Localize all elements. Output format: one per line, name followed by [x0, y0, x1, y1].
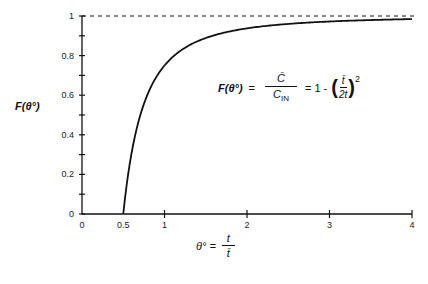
y-tick-label: 0.6 [61, 90, 74, 100]
equation-lhs: F(θ°) [218, 82, 243, 94]
data-curve [123, 19, 412, 214]
x-tick-label: 2 [244, 220, 249, 230]
inner-numerator: t̄ [340, 75, 347, 88]
x-tick-label: 3 [327, 220, 332, 230]
x-axis-label: θ° = t t̄ [196, 232, 239, 259]
denominator-subscript: IN [281, 94, 289, 103]
x-tick-label: 0 [79, 220, 84, 230]
y-tick-label: 0.4 [61, 130, 74, 140]
exponent: 2 [355, 74, 360, 84]
x-label-fraction: t t̄ [222, 232, 235, 259]
x-label-theta: θ° = [196, 240, 216, 252]
y-tick-label: 0.8 [61, 51, 74, 61]
y-tick-label: 1 [69, 11, 74, 21]
x-tick-label: 0.5 [117, 220, 130, 230]
fraction-numerator: C̄ [265, 72, 297, 87]
right-paren: ) [348, 76, 355, 99]
inner-fraction: t̄ 2t [339, 75, 347, 100]
denominator-c: C [273, 88, 281, 100]
left-paren: ( [331, 76, 338, 99]
x-label-numerator: t [222, 232, 235, 246]
y-tick-label: 0.2 [61, 169, 74, 179]
equation-equals: = [249, 82, 255, 94]
y-tick-label: 0 [69, 209, 74, 219]
x-ticks: 00.51234 [79, 210, 414, 230]
equation-rhs-prefix: = 1 - [305, 82, 327, 94]
concentration-fraction: C̄ CIN [265, 72, 297, 103]
y-axis-label: F(θ°) [15, 100, 40, 112]
equation-annotation: F(θ°) = C̄ CIN = 1 - ( t̄ 2t ) 2 [218, 72, 360, 103]
x-tick-label: 1 [162, 220, 167, 230]
x-label-denominator: t̄ [227, 246, 230, 259]
fraction-denominator: CIN [273, 87, 289, 103]
inner-denominator: 2t [339, 88, 347, 100]
x-tick-label: 4 [409, 220, 414, 230]
